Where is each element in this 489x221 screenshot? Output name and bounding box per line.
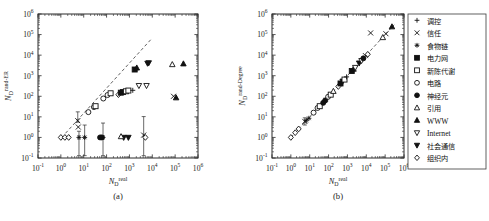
- legend-label: 调控: [427, 17, 441, 26]
- svg-text:NDrand-ER: NDrand-ER: [3, 71, 15, 102]
- legend-label: 食物链: [427, 42, 448, 51]
- legend-marker-square-filled-icon: [415, 55, 420, 60]
- y-tick-label: 101: [23, 111, 34, 121]
- panel-b: 10-110010110210310410510610-110010110210…: [237, 8, 410, 201]
- y-axis-label: NDrand-Degree: [237, 66, 249, 107]
- legend-label: 神经元: [427, 92, 448, 101]
- legend-label: 新陈代谢: [427, 67, 455, 76]
- x-tick-label: 101: [79, 162, 90, 172]
- x-tick-label: 10-1: [266, 162, 278, 172]
- legend: 调控信任食物链电力网新陈代谢电路神经元引用WWWInternet社会通信组织内: [408, 14, 486, 169]
- data-point: [126, 135, 132, 140]
- x-tick-label: 103: [342, 162, 353, 172]
- legend-label: 社会通信: [427, 142, 455, 151]
- legend-marker-circle-filled-icon: [415, 93, 420, 98]
- panel-a: 10-110010110210310410510610-110010110210…: [3, 8, 204, 201]
- y-tick-label: 106: [257, 8, 268, 18]
- x-axis-label: NDreal: [108, 176, 128, 188]
- y-tick-label: 102: [257, 91, 268, 101]
- x-tick-label: 101: [305, 162, 316, 172]
- figure-canvas: 10-110010110210310410510610-110010110210…: [0, 0, 489, 221]
- data-point: [93, 104, 98, 109]
- x-tick-label: 103: [124, 162, 135, 172]
- panel-caption: (a): [113, 191, 123, 201]
- plot-area-b: [288, 24, 394, 141]
- x-tick-label: 106: [193, 162, 204, 172]
- y-tick-label: 10-1: [255, 152, 267, 162]
- data-point: [181, 61, 187, 66]
- data-point: [383, 31, 388, 36]
- y-tick-label: 103: [23, 70, 34, 80]
- legend-label: 电路: [427, 79, 441, 88]
- legend-label: 组织内: [427, 154, 448, 163]
- data-point: [76, 135, 81, 140]
- y-tick-label: 105: [257, 29, 268, 39]
- svg-text:NDrand-Degree: NDrand-Degree: [237, 66, 249, 107]
- svg-text:NDreal: NDreal: [108, 176, 128, 188]
- error-bar: [83, 125, 87, 156]
- data-point: [144, 83, 150, 88]
- y-tick-label: 105: [23, 29, 34, 39]
- x-tick-label: 10-1: [32, 162, 44, 172]
- data-point: [361, 56, 366, 61]
- x-tick-label: 104: [147, 162, 158, 172]
- data-point: [101, 96, 106, 101]
- panel-caption: (b): [333, 191, 343, 201]
- figure-root: 10-110010110210310410510610-110010110210…: [0, 0, 489, 221]
- x-axis-label: NDreal: [328, 176, 348, 188]
- data-point: [82, 135, 87, 140]
- data-point: [306, 116, 311, 121]
- data-point: [293, 130, 298, 136]
- y-tick-label: 10-1: [21, 152, 33, 162]
- data-point: [136, 83, 142, 88]
- data-point: [311, 110, 316, 115]
- data-point: [101, 135, 106, 140]
- data-point: [66, 135, 71, 141]
- x-tick-label: 105: [170, 162, 181, 172]
- error-bar: [77, 131, 81, 155]
- data-point: [86, 110, 91, 115]
- legend-label: WWW: [427, 117, 449, 126]
- x-tick-label: 102: [323, 162, 334, 172]
- legend-marker-circle-open-icon: [415, 80, 420, 85]
- legend-label: 引用: [427, 104, 441, 113]
- y-tick-label: 100: [23, 132, 34, 142]
- x-tick-label: 104: [361, 162, 372, 172]
- x-tick-label: 100: [56, 162, 67, 172]
- data-point: [170, 62, 176, 67]
- svg-text:NDreal: NDreal: [328, 176, 348, 188]
- data-point: [126, 88, 131, 93]
- y-axis-label: NDrand-ER: [3, 71, 15, 102]
- data-point: [76, 125, 81, 130]
- data-point: [368, 30, 373, 35]
- legend-label: 电力网: [427, 54, 448, 63]
- y-tick-label: 104: [23, 50, 34, 60]
- plot-area-a: [58, 39, 186, 156]
- legend-label: Internet: [427, 129, 452, 138]
- y-tick-label: 102: [23, 91, 34, 101]
- x-tick-label: 100: [286, 162, 297, 172]
- data-point: [108, 91, 113, 96]
- legend-marker-asterisk-icon: [415, 43, 420, 48]
- y-tick-label: 100: [257, 132, 268, 142]
- y-tick-label: 101: [257, 111, 268, 121]
- y-tick-label: 106: [23, 8, 34, 18]
- legend-label: 信任: [427, 29, 441, 38]
- data-point: [331, 88, 337, 93]
- x-tick-label: 105: [380, 162, 391, 172]
- legend-marker-square-open-icon: [415, 68, 420, 73]
- x-tick-label: 102: [101, 162, 112, 172]
- y-tick-label: 104: [257, 50, 268, 60]
- y-tick-label: 103: [257, 70, 268, 80]
